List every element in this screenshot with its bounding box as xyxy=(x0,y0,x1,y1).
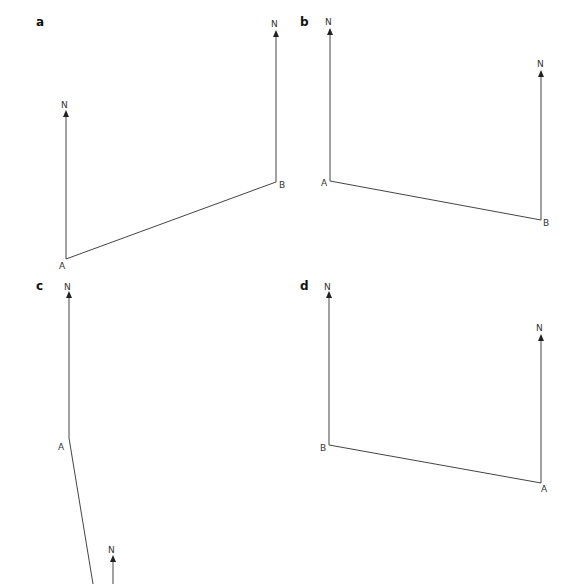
point-label-a: A xyxy=(59,261,66,271)
panel-a: a N N A B xyxy=(36,15,285,271)
north-label: N xyxy=(271,19,278,29)
north-label: N xyxy=(537,59,544,69)
arrowhead-icon xyxy=(538,334,544,341)
north-label: N xyxy=(324,282,331,292)
point-label-b: B xyxy=(320,443,326,453)
bearing-line-ab xyxy=(330,181,541,220)
arrowhead-icon xyxy=(66,291,72,298)
point-label-b: B xyxy=(279,180,285,190)
point-label-a: A xyxy=(321,178,328,188)
north-label: N xyxy=(64,282,71,292)
north-label: N xyxy=(325,17,332,27)
north-label: N xyxy=(536,323,543,333)
panel-label-a: a xyxy=(36,15,44,29)
arrowhead-icon xyxy=(273,30,279,37)
panel-c: c N A N xyxy=(36,279,116,584)
bearing-line-ab xyxy=(66,182,276,259)
panel-label-c: c xyxy=(36,279,43,293)
point-label-a: A xyxy=(58,442,65,452)
arrowhead-icon xyxy=(327,28,333,35)
point-label-a: A xyxy=(541,484,548,494)
north-label: N xyxy=(108,545,115,555)
panel-label-d: d xyxy=(300,279,309,293)
north-label: N xyxy=(61,100,68,110)
bearing-line-ba xyxy=(329,445,541,483)
panel-b: b N N A B xyxy=(300,15,549,228)
bearing-line-ab xyxy=(69,438,93,584)
panel-label-b: b xyxy=(300,15,309,29)
panel-d: d N N B A xyxy=(300,279,548,494)
arrowhead-icon xyxy=(326,291,332,298)
arrowhead-icon xyxy=(110,555,116,562)
arrowhead-icon xyxy=(538,70,544,77)
arrowhead-icon xyxy=(63,110,69,117)
point-label-b: B xyxy=(543,218,549,228)
bearing-diagrams: a N N A B b N N A B c N A N d xyxy=(0,0,577,584)
